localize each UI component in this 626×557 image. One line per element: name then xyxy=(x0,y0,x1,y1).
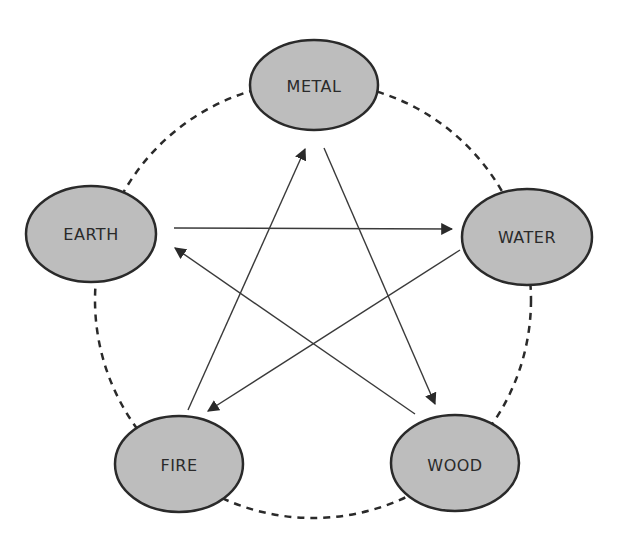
node-water: WATER xyxy=(462,189,592,285)
metal-label: METAL xyxy=(287,77,342,96)
node-metal: METAL xyxy=(250,40,378,130)
arrow-wood-to-earth xyxy=(175,248,415,414)
arrow-fire-to-metal xyxy=(188,149,305,410)
fire-label: FIRE xyxy=(160,456,197,475)
five-elements-diagram: METAL WATER WOOD FIRE EARTH xyxy=(0,0,626,557)
wood-label: WOOD xyxy=(427,456,482,475)
node-fire: FIRE xyxy=(115,416,243,512)
earth-label: EARTH xyxy=(63,225,118,244)
arrow-earth-to-water xyxy=(174,228,452,229)
water-label: WATER xyxy=(498,228,556,247)
node-earth: EARTH xyxy=(26,186,156,282)
node-wood: WOOD xyxy=(391,415,519,511)
arrow-water-to-fire xyxy=(208,250,460,411)
